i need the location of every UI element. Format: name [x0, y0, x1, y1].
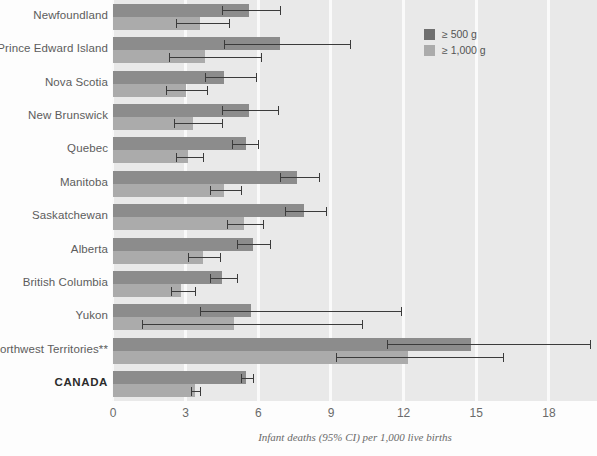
legend-swatch-dark-icon — [424, 29, 435, 40]
bar-ge-500g — [113, 238, 253, 251]
error-bar-line — [210, 278, 237, 279]
error-bar-cap-high — [319, 173, 320, 182]
legend-swatch-light-icon — [424, 45, 435, 56]
error-bar-line — [227, 224, 263, 225]
x-tick-label-6: 6 — [255, 406, 262, 420]
bar-ge-1000g — [113, 384, 195, 397]
x-tick-label-0: 0 — [110, 406, 117, 420]
category-label-new-brunswick: New Brunswick — [0, 109, 108, 121]
bar-ge-1000g — [113, 217, 244, 230]
error-bar-cap-low — [174, 119, 175, 128]
error-bar-cap-high — [270, 240, 271, 249]
error-bar-cap-low — [241, 374, 242, 383]
error-bar-cap-high — [261, 53, 262, 62]
error-bar-cap-low — [222, 106, 223, 115]
error-bar-cap-high — [362, 320, 363, 329]
error-bar-line — [200, 311, 401, 312]
error-bar-cap-high — [203, 153, 204, 162]
error-bar-cap-low — [280, 173, 281, 182]
infant-mortality-bar-chart: NewfoundlandPrince Edward IslandNova Sco… — [0, 0, 597, 456]
x-tick-label-12: 12 — [397, 406, 410, 420]
error-bar-line — [210, 190, 241, 191]
error-bar-cap-high — [590, 340, 591, 349]
error-bar-line — [224, 44, 350, 45]
error-bar-cap-high — [503, 353, 504, 362]
category-label-prince-edward-island: Prince Edward Island — [0, 42, 108, 54]
category-label-alberta: Alberta — [0, 243, 108, 255]
error-bar-cap-low — [222, 6, 223, 15]
error-bar-line — [241, 378, 253, 379]
error-bar-line — [171, 291, 195, 292]
chart-row: Alberta — [0, 234, 597, 267]
error-bar-cap-high — [258, 140, 259, 149]
error-bar-cap-high — [237, 274, 238, 283]
error-bar-cap-low — [176, 19, 177, 28]
category-label-newfoundland: Newfoundland — [0, 9, 108, 21]
bar-ge-500g — [113, 137, 246, 150]
legend-label-ge-500g: ≥ 500 g — [442, 28, 477, 40]
x-axis-caption: Infant deaths (95% CI) per 1,000 live bi… — [113, 431, 597, 443]
error-bar-cap-high — [220, 253, 221, 262]
error-bar-line — [169, 57, 261, 58]
chart-row: New Brunswick — [0, 100, 597, 133]
chart-row: Yukon — [0, 301, 597, 334]
category-label-manitoba: Manitoba — [0, 176, 108, 188]
error-bar-line — [174, 123, 222, 124]
chart-row: British Columbia — [0, 267, 597, 300]
error-bar-cap-low — [166, 86, 167, 95]
bar-ge-1000g — [113, 184, 224, 197]
error-bar-line — [336, 357, 503, 358]
chart-row: Newfoundland — [0, 0, 597, 33]
error-bar-cap-low — [210, 274, 211, 283]
error-bar-cap-low — [188, 253, 189, 262]
chart-row: Prince Edward Island — [0, 33, 597, 66]
error-bar-line — [222, 110, 278, 111]
chart-row: Northwest Territories** — [0, 334, 597, 367]
category-rows: NewfoundlandPrince Edward IslandNova Sco… — [0, 0, 597, 401]
error-bar-cap-low — [285, 207, 286, 216]
bar-ge-500g — [113, 204, 304, 217]
error-bar-cap-low — [176, 153, 177, 162]
error-bar-cap-low — [336, 353, 337, 362]
error-bar-cap-low — [210, 186, 211, 195]
chart-legend: ≥ 500 g ≥ 1,000 g — [424, 28, 486, 60]
error-bar-cap-high — [200, 387, 201, 396]
bar-ge-500g — [113, 371, 246, 384]
error-bar-line — [387, 344, 590, 345]
chart-row: CANADA — [0, 368, 597, 401]
error-bar-cap-high — [256, 73, 257, 82]
bar-ge-500g — [113, 171, 297, 184]
error-bar-cap-low — [191, 387, 192, 396]
error-bar-line — [222, 10, 280, 11]
chart-row: Manitoba — [0, 167, 597, 200]
error-bar-cap-high — [350, 40, 351, 49]
category-label-nova-scotia: Nova Scotia — [0, 76, 108, 88]
chart-row: Saskatchewan — [0, 201, 597, 234]
error-bar-cap-low — [387, 340, 388, 349]
category-label-saskatchewan: Saskatchewan — [0, 209, 108, 221]
x-tick-label-15: 15 — [470, 406, 483, 420]
error-bar-cap-high — [195, 287, 196, 296]
category-label-british-columbia: British Columbia — [0, 276, 108, 288]
legend-label-ge-1000g: ≥ 1,000 g — [442, 44, 486, 56]
error-bar-cap-low — [171, 287, 172, 296]
error-bar-cap-low — [224, 40, 225, 49]
error-bar-cap-low — [169, 53, 170, 62]
error-bar-cap-low — [200, 307, 201, 316]
category-label-northwest-territories: Northwest Territories** — [0, 343, 108, 355]
error-bar-cap-high — [326, 207, 327, 216]
x-tick-label-18: 18 — [542, 406, 555, 420]
error-bar-cap-high — [280, 6, 281, 15]
bar-ge-500g — [113, 271, 222, 284]
error-bar-line — [166, 90, 207, 91]
error-bar-line — [205, 77, 256, 78]
error-bar-line — [176, 23, 229, 24]
error-bar-cap-low — [227, 220, 228, 229]
error-bar-cap-high — [222, 119, 223, 128]
error-bar-cap-high — [229, 19, 230, 28]
error-bar-cap-low — [232, 140, 233, 149]
error-bar-line — [142, 324, 362, 325]
x-tick-label-3: 3 — [182, 406, 189, 420]
category-label-quebec: Quebec — [0, 142, 108, 154]
error-bar-cap-low — [237, 240, 238, 249]
